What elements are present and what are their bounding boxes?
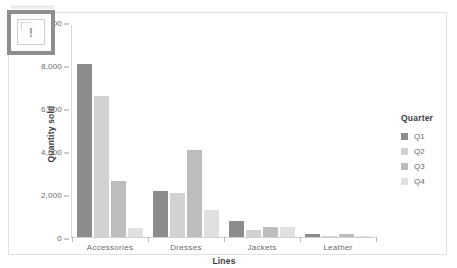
broken-image-icon: ! xyxy=(29,26,33,39)
y-axis-tick-label: 8,000 xyxy=(41,62,71,71)
legend-item-q4[interactable]: Q4 xyxy=(401,174,457,189)
bar-dresses-q4[interactable] xyxy=(204,210,219,237)
y-axis-tick-label: 6,000 xyxy=(41,105,71,114)
legend-swatch-icon xyxy=(401,133,408,140)
broken-image-frame: ! xyxy=(17,19,45,45)
bar-leather-q2[interactable] xyxy=(322,236,337,237)
legend: Quarter Q1Q2Q3Q4 xyxy=(401,113,457,189)
bars-layer xyxy=(72,23,376,237)
bar-leather-q1[interactable] xyxy=(305,234,320,237)
legend-label: Q2 xyxy=(414,147,425,156)
chart-card: Quantity sold 02,0004,0006,0008,00010,00… xyxy=(8,12,447,255)
x-axis-tick xyxy=(224,237,225,242)
legend-item-q2[interactable]: Q2 xyxy=(401,144,457,159)
top-artifact xyxy=(11,5,54,9)
bar-accessories-q4[interactable] xyxy=(128,228,143,237)
x-axis-title: Lines xyxy=(72,256,376,266)
bar-accessories-q1[interactable] xyxy=(77,64,92,237)
x-axis-tick xyxy=(376,237,377,242)
x-axis-label-dresses: Dresses xyxy=(148,243,224,252)
legend-swatch-icon xyxy=(401,148,408,155)
legend-label: Q1 xyxy=(414,132,425,141)
y-axis-tick-label: 2,000 xyxy=(41,191,71,200)
x-axis-labels: AccessoriesDressesJacketsLeather xyxy=(72,243,376,252)
legend-item-q1[interactable]: Q1 xyxy=(401,129,457,144)
legend-label: Q4 xyxy=(414,177,425,186)
x-axis-label-jackets: Jackets xyxy=(224,243,300,252)
bar-leather-q3[interactable] xyxy=(339,234,354,237)
bar-accessories-q3[interactable] xyxy=(111,181,126,237)
x-axis-label-leather: Leather xyxy=(300,243,376,252)
bar-group xyxy=(148,23,224,237)
bar-dresses-q2[interactable] xyxy=(170,193,185,237)
legend-label: Q3 xyxy=(414,162,425,171)
bar-jackets-q4[interactable] xyxy=(280,227,295,237)
y-axis-tick-label: 4,000 xyxy=(41,148,71,157)
y-axis-tick-label: 0 xyxy=(57,234,71,243)
x-axis-tick xyxy=(72,237,73,242)
x-axis-tick xyxy=(148,237,149,242)
bar-group xyxy=(300,23,376,237)
legend-swatch-icon xyxy=(401,163,408,170)
bar-jackets-q3[interactable] xyxy=(263,227,278,237)
bar-dresses-q3[interactable] xyxy=(187,150,202,237)
x-axis-tick xyxy=(300,237,301,242)
legend-items: Q1Q2Q3Q4 xyxy=(401,129,457,189)
bar-dresses-q1[interactable] xyxy=(153,191,168,237)
legend-item-q3[interactable]: Q3 xyxy=(401,159,457,174)
legend-swatch-icon xyxy=(401,178,408,185)
bar-jackets-q1[interactable] xyxy=(229,221,244,237)
bar-accessories-q2[interactable] xyxy=(94,96,109,237)
x-axis-label-accessories: Accessories xyxy=(72,243,148,252)
legend-title: Quarter xyxy=(401,113,457,123)
bar-jackets-q2[interactable] xyxy=(246,230,261,237)
bar-group xyxy=(224,23,300,237)
broken-image-placeholder[interactable]: ! xyxy=(7,10,55,55)
bar-group xyxy=(72,23,148,237)
bar-leather-q4[interactable] xyxy=(356,236,371,237)
